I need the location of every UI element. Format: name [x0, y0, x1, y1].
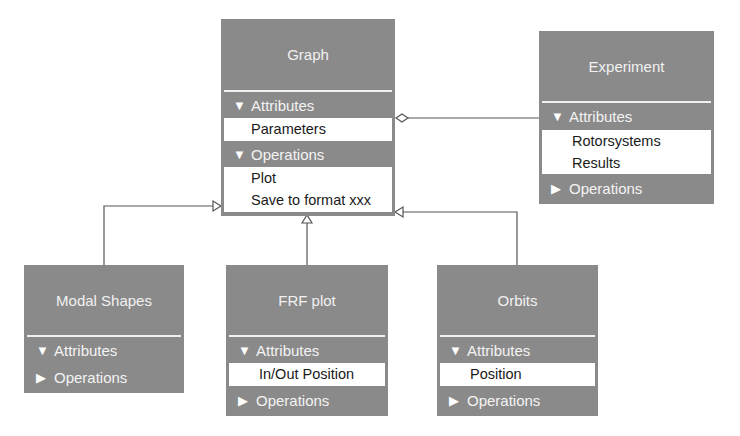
- generalization-arrow-icon: [395, 207, 403, 217]
- section-label: Operations: [256, 392, 329, 409]
- generalization-arrow-icon: [302, 215, 312, 223]
- expanded-triangle-icon: ▼: [233, 147, 251, 162]
- collapsed-triangle-icon: ▶: [36, 370, 54, 385]
- attribute-item[interactable]: In/Out Position: [259, 363, 385, 385]
- section-label: Attributes: [251, 97, 314, 114]
- section-label: Operations: [54, 369, 127, 386]
- section-operations[interactable]: ▶ Operations: [226, 386, 388, 414]
- class-frf-plot[interactable]: FRF plot ▼ Attributes In/Out Position ▶ …: [226, 265, 388, 416]
- attribute-item[interactable]: Position: [470, 363, 595, 385]
- expanded-triangle-icon: ▼: [551, 109, 569, 124]
- class-title: Experiment: [539, 31, 714, 101]
- class-title: Modal Shapes: [24, 265, 184, 335]
- section-label: Attributes: [467, 342, 530, 359]
- section-operations[interactable]: ▶ Operations: [24, 364, 184, 391]
- attribute-list: In/Out Position: [229, 363, 385, 386]
- section-attributes[interactable]: ▼ Attributes: [437, 337, 598, 363]
- expanded-triangle-icon: ▼: [233, 98, 251, 113]
- class-title: Orbits: [437, 265, 598, 335]
- class-orbits[interactable]: Orbits ▼ Attributes Position ▶ Operation…: [437, 265, 598, 416]
- operation-item[interactable]: Save to format xxx: [251, 189, 392, 211]
- section-attributes[interactable]: ▼ Attributes: [226, 337, 388, 363]
- attribute-list: Parameters: [224, 118, 392, 141]
- expanded-triangle-icon: ▼: [36, 343, 54, 358]
- aggregation-diamond-icon: [396, 114, 408, 122]
- section-operations[interactable]: ▶ Operations: [437, 386, 598, 414]
- section-operations[interactable]: ▼ Operations: [221, 141, 395, 167]
- section-label: Attributes: [256, 342, 319, 359]
- generalization-line-modal: [104, 206, 213, 265]
- attribute-item[interactable]: Results: [572, 152, 711, 174]
- collapsed-triangle-icon: ▶: [238, 393, 256, 408]
- attribute-list: Rotorsystems Results: [542, 130, 711, 174]
- generalization-line-orbits: [403, 212, 517, 265]
- section-attributes[interactable]: ▼ Attributes: [539, 103, 714, 130]
- operation-list: Plot Save to format xxx: [224, 167, 392, 213]
- class-modal-shapes[interactable]: Modal Shapes ▼ Attributes ▶ Operations: [24, 265, 184, 393]
- section-attributes[interactable]: ▼ Attributes: [221, 92, 395, 118]
- section-attributes[interactable]: ▼ Attributes: [24, 337, 184, 364]
- operation-item[interactable]: Plot: [251, 167, 392, 189]
- class-title: Graph: [221, 19, 395, 90]
- collapsed-triangle-icon: ▶: [551, 181, 569, 196]
- section-label: Operations: [251, 146, 324, 163]
- section-label: Attributes: [569, 108, 632, 125]
- expanded-triangle-icon: ▼: [449, 343, 467, 358]
- section-label: Operations: [467, 392, 540, 409]
- expanded-triangle-icon: ▼: [238, 343, 256, 358]
- class-experiment[interactable]: Experiment ▼ Attributes Rotorsystems Res…: [539, 31, 714, 204]
- attribute-list: Position: [440, 363, 595, 386]
- class-title: FRF plot: [226, 265, 388, 335]
- attribute-item[interactable]: Rotorsystems: [572, 130, 711, 152]
- section-operations[interactable]: ▶ Operations: [539, 174, 714, 202]
- attribute-item[interactable]: Parameters: [251, 118, 392, 140]
- section-label: Operations: [569, 180, 642, 197]
- class-graph[interactable]: Graph ▼ Attributes Parameters ▼ Operatio…: [221, 19, 395, 216]
- generalization-arrow-icon: [213, 201, 221, 211]
- section-label: Attributes: [54, 342, 117, 359]
- collapsed-triangle-icon: ▶: [449, 393, 467, 408]
